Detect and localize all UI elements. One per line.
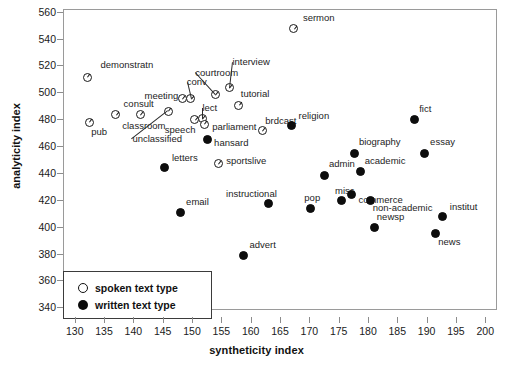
point-label-institut: institut (450, 202, 477, 212)
marker-hand-icon (262, 128, 265, 132)
data-point-letters (160, 163, 169, 172)
legend-item-written[interactable]: written text type (78, 296, 211, 313)
data-point-sportslive (214, 159, 223, 168)
y-tick-label: 400 (38, 221, 56, 233)
y-tick-mark (57, 119, 63, 120)
y-tick-label: 340 (38, 301, 56, 313)
y-tick-mark (57, 92, 63, 93)
data-point-sermon (289, 24, 298, 33)
y-tick-label: 360 (38, 274, 56, 286)
point-label-news: news (438, 237, 460, 247)
x-tick-mark (309, 317, 310, 323)
point-label-advert: advert (249, 240, 275, 250)
point-label-instructional: instructional (226, 189, 277, 199)
marker-hand-icon (140, 112, 143, 116)
y-axis-title: analyticity index (10, 76, 22, 216)
point-label-meeting: meeting (144, 91, 178, 101)
data-point-pop (306, 204, 315, 213)
y-tick-label: 460 (38, 140, 56, 152)
point-label-sportslive: sportslive (226, 156, 266, 166)
y-tick-label: 520 (38, 59, 56, 71)
marker-hand-icon (168, 108, 171, 112)
point-label-religion: religion (299, 111, 330, 121)
marker-hand-icon (89, 119, 92, 123)
x-tick-mark (104, 317, 105, 323)
filled-circle-icon (78, 300, 88, 310)
data-point-advert (239, 251, 248, 260)
legend-label: spoken text type (95, 282, 178, 294)
data-point-instructional (264, 199, 273, 208)
x-tick-mark (485, 317, 486, 323)
y-tick-mark (57, 227, 63, 228)
marker-hand-icon (294, 26, 297, 30)
point-label-tutorial: tutorial (241, 89, 270, 99)
x-tick-mark (163, 317, 164, 323)
data-point-fict (410, 115, 419, 124)
y-tick-mark (57, 200, 63, 201)
data-point-newsp (370, 223, 379, 232)
y-tick-mark (57, 173, 63, 174)
data-point-classroom (136, 110, 145, 119)
data-point-biography (350, 149, 359, 158)
point-label-letters: letters (172, 153, 198, 163)
y-tick-label: 500 (38, 86, 56, 98)
x-tick-mark (280, 317, 281, 323)
point-label-fict: fict (419, 104, 431, 114)
point-label-demonstratn: demonstratn (100, 60, 153, 70)
marker-hand-icon (116, 112, 119, 116)
data-point-misc (337, 196, 346, 205)
y-tick-label: 540 (38, 33, 56, 45)
point-label-essay: essay (430, 137, 455, 147)
data-point-admin (320, 171, 329, 180)
y-tick-mark (57, 254, 63, 255)
data-point-commerce (347, 190, 356, 199)
y-tick-mark (57, 146, 63, 147)
y-tick-label: 380 (38, 248, 56, 260)
y-tick-label: 560 (38, 6, 56, 18)
data-point-consult (111, 110, 120, 119)
point-label-parliament: parliament (212, 122, 256, 132)
point-label-hansard: hansard (214, 138, 248, 148)
point-label-unclassified: unclassified (132, 134, 182, 144)
point-label-lect: lect (202, 103, 217, 113)
data-point-religion (287, 121, 296, 130)
data-point-tutorial (234, 101, 243, 110)
x-tick-label: 200 (465, 325, 505, 337)
data-point-essay (420, 149, 429, 158)
scatter-plot-figure: analyticity index syntheticity index dem… (0, 0, 513, 379)
marker-hand-icon (239, 102, 242, 106)
point-label-interview: interview (232, 57, 270, 67)
marker-hand-icon (218, 161, 221, 165)
marker-hand-icon (87, 74, 90, 78)
y-tick-label: 420 (38, 194, 56, 206)
x-tick-mark (133, 317, 134, 323)
data-point-brdcast (258, 126, 267, 135)
point-label-speech: speech (165, 125, 196, 135)
y-tick-mark (57, 39, 63, 40)
point-label-admin: admin (329, 159, 355, 169)
x-tick-mark (251, 317, 252, 323)
legend-item-spoken[interactable]: spoken text type (78, 279, 211, 296)
data-point-parliament (200, 120, 209, 129)
point-label-sermon: sermon (303, 13, 335, 23)
point-label-newsp: newsp (377, 212, 404, 222)
point-label-pub: pub (91, 127, 107, 137)
x-tick-mark (456, 317, 457, 323)
plot-frame: demonstratnpubconsultclassroomunclassifi… (63, 9, 497, 310)
data-point-academic (356, 167, 365, 176)
marker-hand-icon (215, 92, 218, 96)
point-label-email: email (186, 197, 209, 207)
x-tick-mark (339, 317, 340, 323)
x-tick-mark (397, 317, 398, 323)
y-tick-mark (57, 12, 63, 13)
y-tick-label: 440 (38, 167, 56, 179)
data-point-hansard (203, 135, 212, 144)
y-tick-mark (57, 307, 63, 308)
point-label-academic: academic (365, 156, 406, 166)
y-tick-mark (57, 280, 63, 281)
legend: spoken text typewritten text type (63, 271, 212, 319)
y-tick-label: 480 (38, 113, 56, 125)
point-label-pop: pop (304, 193, 320, 203)
open-circle-icon (78, 283, 88, 293)
data-point-email (176, 208, 185, 217)
